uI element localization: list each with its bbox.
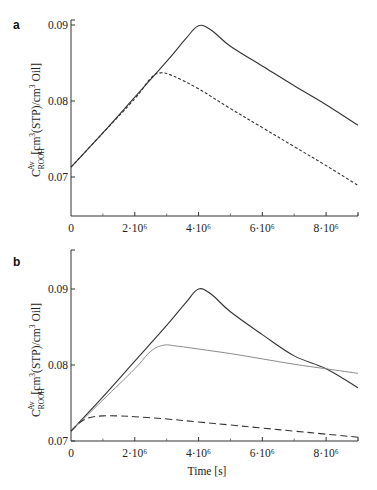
y-axis-units: (STP)/cm [30,328,43,373]
y-tick-label: 0.09 [48,19,68,31]
panel-b-chart: b 02·10⁶4·10⁶6·10⁶8·10⁶0.070.080.09 CROO… [13,250,358,477]
x-tick-label: 6·10⁶ [250,447,275,459]
series-solid [71,25,358,167]
figure: a 02·10⁶4·10⁶6·10⁶8·10⁶0.070.080.09 CROO… [0,0,377,490]
x-tick-label: 0 [68,222,74,234]
panel-b-y-axis-title: CROOHAv [cm3(STP)/cm3 Oil] [27,303,46,417]
y-axis-superscript: Av [27,401,36,410]
y-tick-label: 0.07 [48,435,68,447]
x-tick-label: 4·10⁶ [186,447,211,459]
x-tick-label: 6·10⁶ [250,222,275,234]
series-dotted-gray [71,345,358,431]
x-tick-label: 2·10⁶ [122,447,147,459]
y-axis-units: (STP)/cm [30,88,43,133]
y-axis-units: [cm [30,377,42,398]
x-tick-label: 8·10⁶ [314,222,339,234]
x-tick-label: 0 [68,447,74,459]
x-tick-label: 4·10⁶ [186,222,211,234]
panel-a-axes: 02·10⁶4·10⁶6·10⁶8·10⁶0.070.080.09 [48,19,358,234]
series-solid [71,289,358,432]
y-tick-label: 0.08 [48,359,68,371]
y-axis-units: Oil] [30,63,42,84]
y-axis-units: [cm [30,137,42,158]
y-tick-label: 0.08 [48,95,68,107]
y-tick-label: 0.07 [48,171,68,183]
x-axis-title: Time [s] [188,465,227,477]
panel-b-label: b [13,255,20,269]
panel-a-label: a [13,18,20,32]
panel-b-series [71,289,358,438]
x-tick-label: 8·10⁶ [314,447,339,459]
panel-a-y-axis-title: CROOHAv [cm3(STP)/cm3 Oil] [27,63,46,177]
series-dashed [71,73,358,186]
y-axis-superscript: Av [27,161,36,170]
series-dashed [71,416,358,437]
x-tick-label: 2·10⁶ [122,222,147,234]
panel-a-chart: a 02·10⁶4·10⁶6·10⁶8·10⁶0.070.080.09 CROO… [13,18,358,234]
panel-b-axes: 02·10⁶4·10⁶6·10⁶8·10⁶0.070.080.09 [48,250,358,459]
y-axis-units: Oil] [30,303,42,324]
y-tick-label: 0.09 [48,283,68,295]
panel-a-series [71,25,358,185]
